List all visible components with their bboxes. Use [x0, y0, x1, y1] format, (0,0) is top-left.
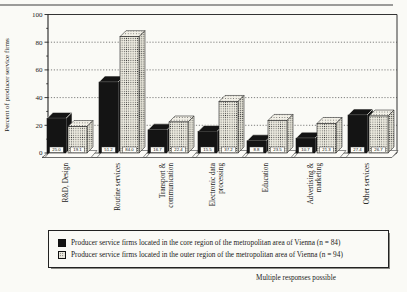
bar-side-face	[336, 117, 342, 153]
category-label: Education	[262, 163, 270, 193]
bar-side-face	[238, 95, 244, 153]
category-label: Electronic data	[209, 162, 217, 206]
value-label: 27.4	[353, 147, 362, 152]
value-label: 26.7	[374, 147, 383, 152]
bar-side-face	[188, 116, 194, 153]
category-label: Transport &	[159, 163, 167, 198]
y-axis-title: Percent of producer service firms	[3, 38, 11, 132]
category-label: communication	[167, 163, 175, 208]
value-label: 25.0	[52, 147, 61, 152]
category-label: Advertising &	[307, 163, 315, 205]
category-label: Other services	[363, 163, 371, 205]
legend-swatch-core-icon	[58, 239, 66, 247]
bar-group-1: 51.284.0Routine services	[97, 31, 149, 211]
y-tick-label: 100	[32, 11, 43, 19]
value-label: 37.2	[224, 147, 233, 152]
value-label: 84.0	[125, 147, 134, 152]
bar-outer-region	[219, 101, 238, 153]
category-label: marketing	[315, 163, 323, 193]
footnote: Multiple responses possible	[256, 274, 336, 282]
bar-core-region	[99, 82, 118, 153]
y-tick-label: 40	[36, 94, 44, 102]
value-label: 51.2	[104, 147, 113, 152]
value-label: 21.3	[322, 147, 331, 152]
y-axis: 020406080100	[32, 11, 48, 158]
category-label: processing	[217, 163, 225, 194]
y-tick-label: 20	[36, 122, 44, 130]
bar-chart: 020406080100Percent of producer service …	[0, 0, 407, 230]
bar-group-4: 8.823.5Education	[245, 114, 297, 192]
y-tick-label: 80	[36, 39, 44, 47]
legend-label-outer: Producer service firms located in the ou…	[71, 251, 343, 259]
value-label: 8.8	[254, 147, 261, 152]
legend-item-outer: Producer service firms located in the ou…	[58, 251, 384, 259]
legend-label-core: Producer service firms located in the co…	[71, 239, 340, 247]
bar-group-0: 25.019.1R&D, Design	[45, 112, 97, 202]
chart-legend: Producer service firms located in the co…	[48, 230, 389, 268]
legend-item-core: Producer service firms located in the co…	[58, 239, 384, 247]
y-tick-label: 60	[36, 66, 44, 74]
value-label: 16.7	[153, 147, 162, 152]
bar-side-face	[87, 121, 93, 153]
y-tick-label: 0	[39, 149, 43, 157]
bar-group-3: 15.537.2Electronic dataprocessing	[196, 95, 248, 206]
legend-swatch-outer-icon	[58, 251, 66, 259]
bar-outer-region	[120, 37, 139, 153]
value-label: 23.5	[273, 147, 282, 152]
bar-side-face	[139, 31, 145, 153]
bar-side-face	[388, 110, 394, 153]
scanned-figure-page: 020406080100Percent of producer service …	[0, 0, 407, 292]
value-label: 10.7	[301, 147, 310, 152]
value-label: 15.5	[203, 147, 212, 152]
bar-side-face	[287, 114, 293, 153]
bar-group-6: 27.426.7Other services	[346, 109, 398, 204]
category-label: Routine services	[114, 163, 122, 211]
bar-group-2: 16.722.4Transport &communication	[146, 116, 198, 208]
bar-group-5: 10.721.3Advertising &marketing	[294, 117, 346, 204]
category-label: R&D, Design	[62, 163, 70, 203]
value-label: 22.4	[174, 147, 183, 152]
value-label: 19.1	[73, 147, 82, 152]
